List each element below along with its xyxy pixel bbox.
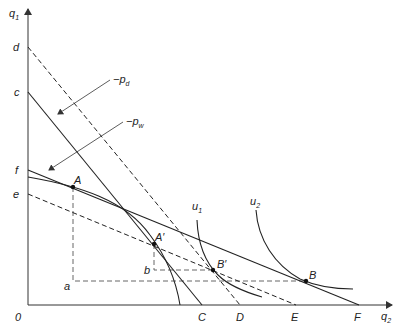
label-a: a — [64, 280, 70, 292]
label-d: d — [13, 41, 20, 53]
y-axis-label: q1 — [9, 7, 19, 21]
label-b: b — [144, 264, 150, 276]
label-B-prime: B′ — [217, 258, 227, 270]
label-A-prime: A′ — [154, 231, 165, 243]
x-axis-label: q2 — [381, 310, 391, 324]
price-line-f-F — [28, 170, 359, 305]
label-neg-pd: −pd — [113, 73, 131, 87]
label-E: E — [291, 311, 299, 323]
indifference-curve-u2 — [256, 210, 353, 289]
label-e: e — [13, 188, 19, 200]
label-f: f — [15, 164, 19, 176]
pointer-pd-arrow — [58, 80, 110, 114]
label-u2: u2 — [250, 195, 260, 209]
price-line-d-D — [28, 47, 240, 305]
label-c: c — [14, 86, 20, 98]
origin-label: 0 — [15, 311, 22, 323]
label-neg-pw: −pw — [126, 115, 145, 129]
label-D: D — [236, 311, 244, 323]
price-line-c-C — [28, 92, 202, 305]
point-B-dot — [304, 279, 308, 283]
indifference-curve-u1 — [197, 220, 262, 297]
label-A: A — [73, 174, 81, 186]
guide-a — [73, 187, 306, 281]
trade-diagram: q1 q2 0 d c f e C D E F A A′ B′ B a b −p… — [0, 0, 400, 330]
label-B: B — [309, 269, 316, 281]
label-C: C — [198, 311, 206, 323]
label-u1: u1 — [192, 200, 202, 214]
label-F: F — [354, 311, 362, 323]
point-B-prime-dot — [211, 268, 215, 272]
